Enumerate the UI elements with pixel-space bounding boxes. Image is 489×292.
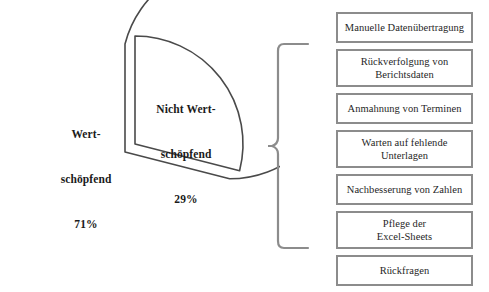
pie-label-non-value-adding-line2: schöpfend: [138, 147, 234, 162]
callout-box-label: Rückfragen: [377, 264, 432, 277]
pie-label-non-value-adding: Nicht Wert- schöpfend 29%: [138, 72, 234, 237]
pie-chart-with-callout-list: Wert- schöpfend 71% Nicht Wert- schöpfen…: [0, 0, 489, 292]
callout-box-warten-auf-fehlende-unterlagen[interactable]: Warten auf fehlende Unterlagen: [336, 130, 473, 168]
callout-box-list: Manuelle Datenübertragung Rückverfolgung…: [336, 12, 473, 282]
pie-label-value-adding-percent: 71%: [40, 217, 132, 232]
callout-box-rueckverfolgung-berichtsdaten[interactable]: Rückverfolgung von Berichtsdaten: [336, 49, 473, 87]
callout-box-rueckfragen[interactable]: Rückfragen: [336, 255, 473, 286]
pie-label-value-adding-line1: Wert-: [40, 127, 132, 142]
callout-box-manuelle-datenuebertragung[interactable]: Manuelle Datenübertragung: [336, 12, 473, 43]
brace-connector-icon: [268, 40, 312, 252]
callout-box-label: Pflege der Excel-Sheets: [374, 217, 435, 243]
callout-box-label: Anmahnung von Terminen: [345, 102, 465, 115]
pie-label-non-value-adding-percent: 29%: [138, 192, 234, 207]
callout-box-pflege-der-excel-sheets[interactable]: Pflege der Excel-Sheets: [336, 211, 473, 249]
callout-box-nachbesserung-von-zahlen[interactable]: Nachbesserung von Zahlen: [336, 174, 473, 205]
pie-label-value-adding-line2: schöpfend: [40, 172, 132, 187]
callout-box-anmahnung-von-terminen[interactable]: Anmahnung von Terminen: [336, 93, 473, 124]
pie-label-non-value-adding-line1: Nicht Wert-: [138, 102, 234, 117]
pie-chart: Wert- schöpfend 71% Nicht Wert- schöpfen…: [0, 0, 280, 292]
callout-box-label: Nachbesserung von Zahlen: [344, 183, 466, 196]
callout-box-label: Warten auf fehlende Unterlagen: [359, 136, 451, 162]
callout-box-label: Rückverfolgung von Berichtsdaten: [358, 55, 452, 81]
callout-box-label: Manuelle Datenübertragung: [342, 21, 467, 34]
pie-label-value-adding: Wert- schöpfend 71%: [40, 97, 132, 262]
